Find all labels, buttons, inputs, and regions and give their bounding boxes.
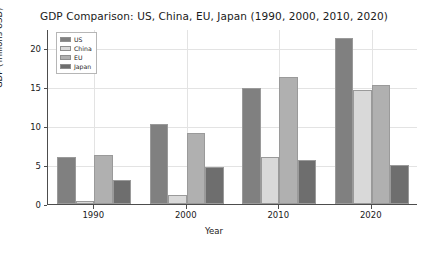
y-axis-label: GDP (Trillions USD) <box>0 8 4 88</box>
bar <box>372 85 391 204</box>
x-tick-mark <box>93 205 94 209</box>
bar <box>298 160 317 204</box>
legend-swatch-icon <box>60 64 71 70</box>
bar <box>187 133 206 204</box>
legend-item: Japan <box>60 62 92 71</box>
chart-figure: GDP Comparison: US, China, EU, Japan (19… <box>0 0 428 258</box>
bar <box>261 157 280 204</box>
legend-label: China <box>74 44 92 53</box>
legend-swatch-icon <box>60 46 71 52</box>
bar <box>76 201 95 204</box>
x-axis-label: Year <box>0 226 428 236</box>
bar <box>150 124 169 204</box>
bar <box>94 155 113 204</box>
bar <box>168 195 187 204</box>
x-tick-label: 2020 <box>341 210 401 220</box>
y-tick-label: 15 <box>30 83 41 93</box>
legend-label: Japan <box>74 62 91 71</box>
y-tick-label: 5 <box>36 161 41 171</box>
bar <box>353 90 372 204</box>
y-tick-mark <box>44 205 48 206</box>
legend-swatch-icon <box>60 55 71 61</box>
legend-item: China <box>60 44 92 53</box>
x-tick-label: 1990 <box>63 210 123 220</box>
bar <box>279 77 298 204</box>
bar <box>242 88 261 204</box>
chart-title: GDP Comparison: US, China, EU, Japan (19… <box>0 10 428 22</box>
legend-item: EU <box>60 53 92 62</box>
y-tick-label: 0 <box>36 200 41 210</box>
gridline-horizontal <box>48 49 417 50</box>
bar <box>113 180 132 204</box>
x-tick-mark <box>371 205 372 209</box>
legend-label: EU <box>74 53 82 62</box>
y-tick-label: 10 <box>30 122 41 132</box>
chart-legend: USChinaEUJapan <box>56 32 97 74</box>
x-tick-mark <box>278 205 279 209</box>
x-tick-mark <box>186 205 187 209</box>
bar <box>205 167 224 204</box>
legend-label: US <box>74 35 82 44</box>
y-tick-label: 20 <box>30 44 41 54</box>
plot-area <box>47 30 417 205</box>
legend-item: US <box>60 35 92 44</box>
x-tick-label: 2000 <box>156 210 216 220</box>
legend-swatch-icon <box>60 37 71 43</box>
bar <box>335 38 354 204</box>
bar <box>57 157 76 204</box>
x-tick-label: 2010 <box>248 210 308 220</box>
bar <box>390 165 409 204</box>
